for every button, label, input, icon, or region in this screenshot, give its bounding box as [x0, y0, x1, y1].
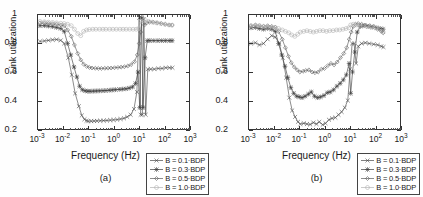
x-minor-tick: [121, 128, 122, 130]
x-minor-tick: [180, 15, 181, 17]
x-tick-mark: [325, 15, 326, 19]
x-minor-tick: [177, 128, 178, 130]
x-tick-mark: [325, 126, 326, 130]
x-tick-mark: [350, 126, 351, 130]
x-minor-tick: [266, 15, 267, 17]
x-minor-tick: [80, 128, 81, 130]
x-minor-tick: [78, 128, 79, 130]
x-minor-tick: [281, 128, 282, 130]
x-minor-tick: [131, 15, 132, 17]
y-tick-mark: [186, 130, 190, 131]
x-minor-tick: [103, 15, 104, 17]
x-minor-tick: [286, 15, 287, 17]
x-minor-tick: [260, 128, 261, 130]
x-minor-tick: [126, 128, 127, 130]
panel-b: Link utilization 10.80.60.40.2 10-310-21…: [211, 0, 422, 197]
y-tick-mark: [38, 14, 42, 15]
y-tick-label: 1: [0, 9, 17, 18]
x-minor-tick: [78, 15, 79, 17]
x-tick-mark: [248, 15, 249, 19]
x-minor-tick: [154, 15, 155, 17]
x-minor-tick: [157, 128, 158, 130]
x-minor-tick: [340, 128, 341, 130]
x-minor-tick: [289, 15, 290, 17]
y-tick-mark: [38, 72, 42, 73]
x-minor-tick: [311, 128, 312, 130]
x-minor-tick: [182, 128, 183, 130]
x-minor-tick: [106, 15, 107, 17]
legend-marker-circle-icon: [149, 183, 164, 192]
y-tick-mark: [186, 101, 190, 102]
x-minor-tick: [121, 15, 122, 17]
x-minor-tick: [129, 128, 130, 130]
x-minor-tick: [342, 128, 343, 130]
x-tick-mark: [114, 126, 115, 130]
x-tick-mark: [248, 126, 249, 130]
y-tick-mark: [397, 101, 401, 102]
x-minor-tick: [49, 128, 50, 130]
y-tick-mark: [397, 43, 401, 44]
x-minor-tick: [383, 128, 384, 130]
x-tick-mark: [274, 15, 275, 19]
x-minor-tick: [307, 15, 308, 17]
x-minor-tick: [388, 15, 389, 17]
figure-container: Link utilization 10.80.60.40.2 10-310-21…: [0, 0, 423, 197]
legend-marker-diamond-icon: [360, 174, 375, 183]
x-minor-tick: [337, 15, 338, 17]
y-tick-label: 0.2: [0, 125, 17, 134]
x-minor-tick: [266, 128, 267, 130]
x-minor-tick: [358, 15, 359, 17]
y-tick-mark: [249, 43, 253, 44]
legend-marker-x-icon: [360, 156, 375, 165]
x-minor-tick: [332, 15, 333, 17]
x-tick-mark: [299, 15, 300, 19]
x-minor-tick: [388, 128, 389, 130]
y-tick-mark: [249, 14, 253, 15]
x-minor-tick: [157, 15, 158, 17]
x-minor-tick: [52, 128, 53, 130]
y-tick-label: 0.4: [202, 96, 228, 105]
x-minor-tick: [286, 128, 287, 130]
y-tick-label: 0.8: [202, 38, 228, 47]
legend-marker-asterisk-icon: [360, 165, 375, 174]
panel-a: Link utilization 10.80.60.40.2 10-310-21…: [0, 0, 211, 197]
panel-a-plot-area: [37, 14, 190, 130]
y-tick-mark: [38, 130, 42, 131]
x-minor-tick: [96, 15, 97, 17]
panel-a-legend: B = 0.1·BDPB = 0.3·BDPB = 0.5·BDPB = 1.0…: [146, 153, 209, 195]
y-tick-label: 0.2: [202, 125, 228, 134]
x-minor-tick: [263, 15, 264, 17]
x-minor-tick: [365, 128, 366, 130]
x-tick-mark: [37, 15, 38, 19]
x-minor-tick: [45, 128, 46, 130]
panel-a-series-canvas: [38, 15, 189, 129]
x-minor-tick: [70, 15, 71, 17]
x-minor-tick: [393, 128, 394, 130]
y-tick-label: 0.6: [202, 67, 228, 76]
x-minor-tick: [49, 15, 50, 17]
x-tick-mark: [401, 126, 402, 130]
legend-item: B = 1.0·BDP: [360, 183, 416, 192]
x-minor-tick: [151, 15, 152, 17]
x-minor-tick: [180, 128, 181, 130]
x-tick-mark: [139, 126, 140, 130]
x-tick-mark: [401, 15, 402, 19]
x-minor-tick: [311, 15, 312, 17]
x-minor-tick: [177, 15, 178, 17]
x-minor-tick: [106, 128, 107, 130]
x-minor-tick: [70, 128, 71, 130]
x-minor-tick: [383, 15, 384, 17]
x-minor-tick: [291, 128, 292, 130]
x-tick-mark: [165, 15, 166, 19]
y-tick-mark: [249, 101, 253, 102]
x-minor-tick: [281, 15, 282, 17]
x-minor-tick: [291, 15, 292, 17]
y-tick-label: 0.4: [0, 96, 17, 105]
y-tick-label: 0.6: [0, 67, 17, 76]
x-tick-mark: [88, 126, 89, 130]
y-tick-mark: [249, 72, 253, 73]
legend-marker-x-icon: [149, 156, 164, 165]
x-minor-tick: [358, 128, 359, 130]
x-minor-tick: [332, 128, 333, 130]
x-minor-tick: [55, 15, 56, 17]
